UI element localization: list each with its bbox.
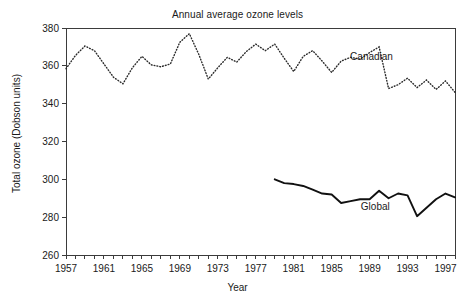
x-tick-label: 1977 — [245, 263, 268, 274]
y-tick-label: 260 — [42, 250, 59, 261]
x-axis-ticks: 1957196119651969197319771981198519891993… — [55, 255, 457, 274]
series-line-canadian — [66, 34, 455, 93]
y-tick-label: 340 — [42, 98, 59, 109]
x-tick-label: 1981 — [283, 263, 306, 274]
axis-lines — [66, 28, 455, 255]
y-tick-label: 360 — [42, 60, 59, 71]
x-tick-label: 1993 — [396, 263, 419, 274]
x-tick-label: 1965 — [131, 263, 154, 274]
x-tick-label: 1985 — [321, 263, 344, 274]
y-axis-ticks: 260280300320340360380 — [42, 23, 66, 261]
x-tick-label: 1969 — [169, 263, 192, 274]
series-annotations: CanadianGlobal — [350, 51, 393, 211]
data-series — [66, 34, 455, 217]
x-tick-label: 1973 — [207, 263, 230, 274]
x-tick-label: 1957 — [55, 263, 78, 274]
series-label-global: Global — [361, 201, 390, 212]
plot-area: 260280300320340360380 195719611965196919… — [0, 0, 475, 308]
y-tick-label: 280 — [42, 212, 59, 223]
x-tick-label: 1989 — [358, 263, 381, 274]
y-tick-label: 320 — [42, 136, 59, 147]
series-label-canadian: Canadian — [350, 51, 393, 62]
y-tick-label: 300 — [42, 174, 59, 185]
y-tick-label: 380 — [42, 23, 59, 34]
ozone-chart-figure: Annual average ozone levels Total ozone … — [0, 0, 475, 308]
x-tick-label: 1997 — [434, 263, 457, 274]
x-tick-label: 1961 — [93, 263, 116, 274]
